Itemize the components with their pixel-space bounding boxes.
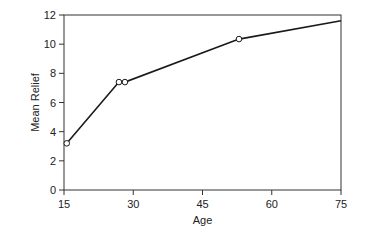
data-line — [67, 21, 341, 144]
y-tick-label: 12 — [44, 9, 56, 21]
x-tick-label: 15 — [58, 198, 70, 210]
y-tick-label: 6 — [50, 97, 56, 109]
data-point-marker — [116, 79, 122, 85]
y-axis-label: Mean Relief — [29, 72, 41, 132]
axes: 0246810121530456075 — [44, 9, 347, 210]
plot-frame — [64, 15, 341, 190]
data-point-marker — [64, 141, 70, 147]
x-tick-label: 60 — [266, 198, 278, 210]
data-point-marker — [122, 79, 128, 85]
y-tick-label: 2 — [50, 155, 56, 167]
x-tick-label: 75 — [335, 198, 347, 210]
x-tick-label: 45 — [196, 198, 208, 210]
y-tick-label: 8 — [50, 67, 56, 79]
y-tick-label: 10 — [44, 38, 56, 50]
y-tick-label: 4 — [50, 126, 56, 138]
x-tick-label: 30 — [127, 198, 139, 210]
series-mean-relief — [64, 21, 341, 146]
line-chart: 0246810121530456075 Age Mean Relief — [0, 0, 365, 237]
x-axis-label: Age — [193, 214, 213, 226]
y-tick-label: 0 — [50, 184, 56, 196]
data-point-marker — [236, 36, 242, 42]
